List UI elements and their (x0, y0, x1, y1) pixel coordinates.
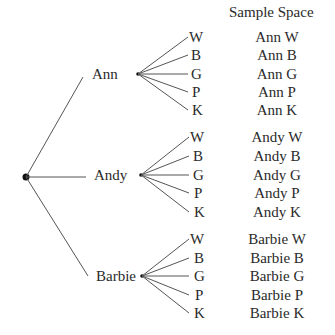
sample-space-title: Sample Space (229, 4, 314, 20)
sample-space-outcome: Barbie K (217, 305, 335, 321)
person-label-barbie: Barbie (96, 268, 136, 284)
sample-space-outcome: Andy P (217, 185, 335, 201)
leaf-choice: B (193, 148, 209, 164)
andy-fan (139, 137, 189, 212)
leaf-choice: W (190, 129, 206, 145)
sample-space-outcome: Ann K (217, 102, 335, 118)
leaf-choice: B (191, 47, 207, 63)
sample-space-outcome: Andy B (217, 148, 335, 164)
branch-ann (26, 77, 83, 177)
sample-space-outcome: Ann G (217, 66, 335, 82)
sample-space-outcome: Andy G (217, 167, 335, 183)
leaf-choice: K (194, 305, 210, 321)
leaf-choice: P (194, 185, 210, 201)
leaf-choice: G (191, 66, 207, 82)
sample-space-outcome: Andy W (217, 129, 335, 145)
leaf-choice: B (194, 250, 210, 266)
branch-barbie (26, 177, 88, 276)
leaf-choice: W (190, 231, 206, 247)
sample-space-outcome: Barbie P (217, 287, 335, 303)
sample-space-outcome: Ann W (217, 29, 335, 45)
person-label-ann: Ann (92, 66, 118, 82)
sample-space-outcome: Andy K (217, 204, 335, 220)
leaf-choice: G (194, 268, 210, 284)
barbie-fan (140, 239, 189, 313)
sample-space-outcome: Barbie W (217, 231, 335, 247)
sample-space-outcome: Barbie B (217, 250, 335, 266)
sample-space-outcome: Ann B (217, 47, 335, 63)
leaf-choice: W (189, 29, 205, 45)
leaf-choice: P (192, 84, 208, 100)
leaf-choice: K (192, 102, 208, 118)
person-label-andy: Andy (94, 167, 127, 183)
leaf-choice: K (194, 204, 210, 220)
sample-space-outcome: Barbie G (217, 268, 335, 284)
sample-space-outcome: Ann P (217, 84, 335, 100)
leaf-choice: P (195, 287, 211, 303)
ann-fan (136, 37, 188, 110)
leaf-choice: G (193, 167, 209, 183)
